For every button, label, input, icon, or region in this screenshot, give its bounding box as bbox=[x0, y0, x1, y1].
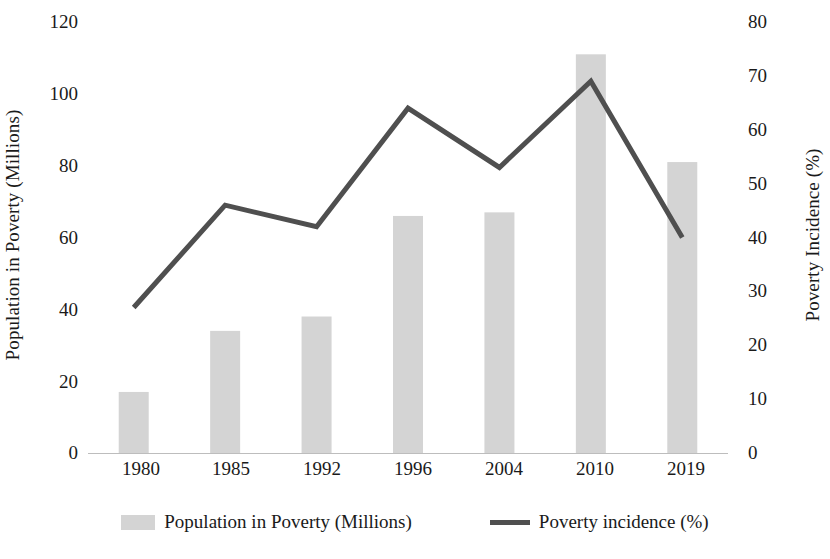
plot-area bbox=[88, 22, 728, 453]
chart-container: Population in Poverty (Millions) Poverty… bbox=[0, 0, 830, 559]
chart-legend: Population in Poverty (Millions) Poverty… bbox=[0, 505, 830, 539]
bar-1980 bbox=[119, 392, 149, 453]
legend-label-population: Population in Poverty (Millions) bbox=[164, 511, 412, 533]
legend-label-incidence: Poverty incidence (%) bbox=[539, 511, 709, 533]
bar-2010 bbox=[576, 54, 606, 453]
x-tick-label-1985: 1985 bbox=[186, 458, 276, 480]
y-axis-right-title: Poverty Incidence (%) bbox=[800, 70, 826, 400]
bar-1985 bbox=[210, 331, 240, 453]
y-right-tick-0: 0 bbox=[748, 443, 792, 463]
legend-line-swatch-icon bbox=[490, 520, 530, 525]
y-left-tick-0: 0 bbox=[34, 443, 78, 463]
x-tick-label-2019: 2019 bbox=[641, 458, 731, 480]
legend-bar-swatch-icon bbox=[121, 515, 155, 530]
bar-2019 bbox=[667, 162, 697, 453]
x-tick-label-2010: 2010 bbox=[550, 458, 640, 480]
y-left-tick-20: 20 bbox=[34, 372, 78, 392]
y-left-tick-80: 80 bbox=[34, 156, 78, 176]
y-right-tick-30: 30 bbox=[748, 281, 792, 301]
y-right-tick-40: 40 bbox=[748, 228, 792, 248]
y-left-tick-60: 60 bbox=[34, 228, 78, 248]
y-right-tick-60: 60 bbox=[748, 120, 792, 140]
y-right-tick-70: 70 bbox=[748, 66, 792, 86]
y-left-tick-120: 120 bbox=[34, 12, 78, 32]
bar-2004 bbox=[484, 212, 514, 453]
y-left-tick-40: 40 bbox=[34, 300, 78, 320]
x-tick-label-1992: 1992 bbox=[277, 458, 367, 480]
y-right-tick-10: 10 bbox=[748, 389, 792, 409]
legend-item-incidence[interactable]: Poverty incidence (%) bbox=[490, 511, 709, 533]
x-tick-label-2004: 2004 bbox=[459, 458, 549, 480]
chart-svg bbox=[88, 22, 728, 453]
legend-item-population[interactable]: Population in Poverty (Millions) bbox=[121, 511, 412, 533]
x-tick-label-1980: 1980 bbox=[96, 458, 186, 480]
y-right-tick-20: 20 bbox=[748, 335, 792, 355]
y-right-tick-50: 50 bbox=[748, 174, 792, 194]
x-tick-label-1996: 1996 bbox=[368, 458, 458, 480]
bar-1992 bbox=[302, 317, 332, 453]
y-left-tick-100: 100 bbox=[34, 84, 78, 104]
y-axis-left-title: Population in Poverty (Millions) bbox=[0, 0, 26, 470]
y-right-tick-80: 80 bbox=[748, 12, 792, 32]
bar-1996 bbox=[393, 216, 423, 453]
x-axis-line bbox=[88, 453, 728, 454]
